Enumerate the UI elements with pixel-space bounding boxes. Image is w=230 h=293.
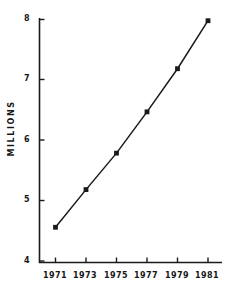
axis-lines <box>40 18 223 263</box>
data-point-markers <box>53 18 210 229</box>
data-point-marker <box>53 225 58 230</box>
line-chart-figure: MILLIONS 8 7 6 5 4 1971 1973 1975 1977 1… <box>0 0 230 293</box>
data-point-marker <box>114 151 119 156</box>
y-tick-label-5: 5 <box>16 195 30 204</box>
y-tick-label-8: 8 <box>16 14 30 23</box>
plot-area <box>0 0 230 293</box>
data-point-marker <box>175 66 180 71</box>
data-point-marker <box>206 18 211 23</box>
x-tick-label-1979: 1979 <box>162 271 192 280</box>
y-tick-label-4: 4 <box>16 256 30 265</box>
data-point-marker <box>84 187 89 192</box>
x-tick-label-1971: 1971 <box>40 271 70 280</box>
data-point-marker <box>145 109 150 114</box>
x-tick-label-1975: 1975 <box>101 271 131 280</box>
x-tick-label-1977: 1977 <box>131 271 161 280</box>
x-tick-label-1981: 1981 <box>192 271 222 280</box>
y-tick-label-7: 7 <box>16 74 30 83</box>
y-tick-label-6: 6 <box>16 135 30 144</box>
x-tick-label-1973: 1973 <box>70 271 100 280</box>
y-axis-title: MILLIONS <box>7 94 16 164</box>
data-series-line <box>56 21 209 228</box>
